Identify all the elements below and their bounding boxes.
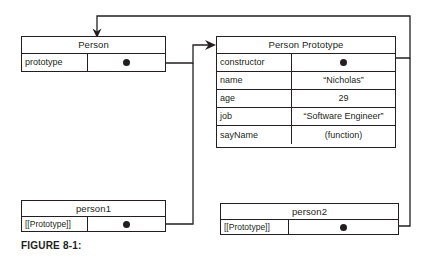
box-proto-row-sayname[interactable]: sayName (function) [217,126,395,144]
property-key-prototype: prototype [22,54,88,71]
box-person2-title: person2 [221,204,398,220]
connector-person-prototype-to-proto [160,45,212,63]
property-key-constructor: constructor [217,54,292,71]
box-person1[interactable]: person1 [[Prototype]] [21,200,166,232]
property-value-prototype [88,54,165,71]
box-person-row-prototype[interactable]: prototype [22,54,165,71]
property-key-internal-prototype: [[Prototype]] [221,220,289,235]
connector-person2-to-proto [394,58,410,226]
figure-caption: FIGURE 8-1: [21,240,82,251]
box-person1-title: person1 [22,201,165,217]
box-person-title: Person [22,37,165,54]
box-person2-row-prototype[interactable]: [[Prototype]] [221,220,398,235]
property-value-name: “Nicholas” [292,72,395,89]
property-key-name: name [217,72,292,89]
box-person2[interactable]: person2 [[Prototype]] [220,203,399,235]
box-person1-row-prototype[interactable]: [[Prototype]] [22,217,165,232]
property-value-age: 29 [292,90,395,107]
box-person[interactable]: Person prototype [21,36,166,72]
pointer-dot-icon [340,224,347,231]
property-value-sayname: (function) [292,126,395,144]
property-value-internal-prototype [289,220,398,235]
property-key-sayname: sayName [217,126,292,144]
property-key-age: age [217,90,292,107]
box-proto-row-constructor[interactable]: constructor [217,54,395,72]
pointer-dot-icon [123,59,130,66]
pointer-dot-icon [340,59,347,66]
figure-container: Person prototype Person Prototype constr… [0,0,426,259]
property-value-internal-prototype [88,217,165,232]
box-proto-row-job[interactable]: job “Software Engineer” [217,108,395,126]
property-value-job: “Software Engineer” [292,108,395,125]
pointer-dot-icon [123,221,130,228]
property-value-constructor [292,54,395,71]
property-key-internal-prototype: [[Prototype]] [22,217,88,232]
box-proto-row-name[interactable]: name “Nicholas” [217,72,395,90]
box-proto-row-age[interactable]: age 29 [217,90,395,108]
box-person-prototype-title: Person Prototype [217,37,395,54]
box-person-prototype[interactable]: Person Prototype constructor name “Nicho… [216,36,396,148]
property-key-job: job [217,108,292,125]
